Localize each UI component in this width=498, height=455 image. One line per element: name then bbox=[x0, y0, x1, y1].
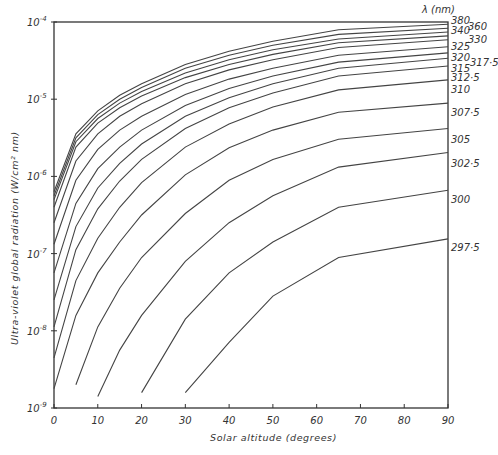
curve-312.5 bbox=[54, 66, 448, 327]
series-label-305: 305 bbox=[451, 134, 470, 145]
x-axis-ticks: 0102030405060708090 bbox=[51, 404, 455, 426]
x-tick-label: 70 bbox=[354, 415, 367, 426]
curve-305 bbox=[76, 129, 448, 385]
curves-group bbox=[54, 24, 448, 396]
series-label-307.5: 307·5 bbox=[451, 107, 480, 118]
series-label-297.5: 297·5 bbox=[451, 242, 480, 253]
x-tick-label: 30 bbox=[179, 415, 192, 426]
x-tick-label: 80 bbox=[398, 415, 411, 426]
uv-radiation-chart: 0102030405060708090 10-410-510-610-710-8… bbox=[0, 0, 498, 455]
x-tick-label: 0 bbox=[51, 415, 57, 426]
curve-315 bbox=[54, 58, 448, 300]
series-labels: 380360340330325320317·5315312·5310307·53… bbox=[451, 15, 498, 253]
curve-325 bbox=[54, 40, 448, 223]
plot-frame bbox=[54, 22, 448, 408]
x-tick-label: 50 bbox=[267, 415, 280, 426]
x-tick-label: 10 bbox=[91, 415, 104, 426]
y-axis-title: Ultra-violet global radiation (W/cm² nm) bbox=[9, 131, 20, 345]
x-tick-label: 60 bbox=[310, 415, 323, 426]
series-label-330: 330 bbox=[468, 34, 487, 45]
x-tick-label: 90 bbox=[442, 415, 455, 426]
y-tick-label: 10-7 bbox=[27, 247, 47, 260]
series-label-310: 310 bbox=[451, 84, 470, 95]
series-label-312.5: 312·5 bbox=[451, 72, 480, 83]
curve-320 bbox=[54, 47, 448, 245]
y-axis-ticks: 10-410-510-610-710-810-9 bbox=[27, 15, 57, 414]
x-tick-label: 40 bbox=[223, 415, 236, 426]
series-label-320: 320 bbox=[451, 52, 470, 63]
curve-297.5 bbox=[185, 239, 448, 393]
y-tick-label: 10-9 bbox=[27, 401, 47, 414]
series-label-300: 300 bbox=[451, 194, 470, 205]
y-tick-label: 10-5 bbox=[27, 92, 47, 105]
x-tick-label: 20 bbox=[135, 415, 148, 426]
legend-title: λ (nm) bbox=[421, 4, 455, 15]
y-tick-label: 10-6 bbox=[27, 169, 47, 182]
curve-317.5 bbox=[54, 53, 448, 273]
series-label-360: 360 bbox=[468, 21, 487, 32]
curve-302.5 bbox=[98, 153, 448, 397]
curve-300 bbox=[142, 190, 448, 392]
series-label-325: 325 bbox=[451, 41, 470, 52]
y-tick-label: 10-8 bbox=[27, 324, 47, 337]
y-tick-label: 10-4 bbox=[27, 15, 47, 28]
series-label-317.5: 317·5 bbox=[470, 57, 498, 68]
series-label-302.5: 302·5 bbox=[451, 158, 480, 169]
curve-307.5 bbox=[54, 103, 448, 389]
x-axis-title: Solar altitude (degrees) bbox=[210, 432, 337, 443]
